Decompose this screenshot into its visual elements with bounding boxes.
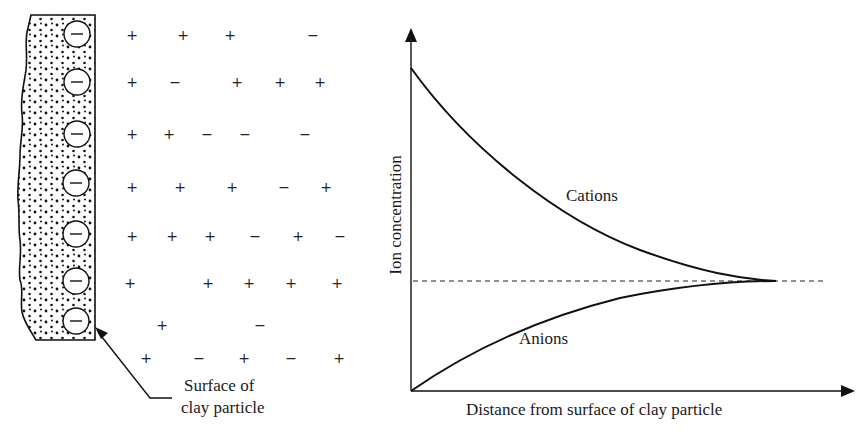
- cation-symbol: +: [231, 75, 243, 89]
- anion-symbol: −: [285, 351, 297, 365]
- cations-label: Cations: [566, 186, 618, 206]
- cation-symbol: +: [124, 276, 136, 290]
- diagram-canvas: [0, 0, 864, 444]
- cation-symbol: +: [126, 28, 138, 42]
- chart-axes: [411, 40, 842, 391]
- cation-symbol: +: [156, 318, 168, 332]
- surface-callout-arrow: [95, 327, 172, 398]
- cation-symbol: +: [126, 229, 138, 243]
- anion-symbol: −: [193, 351, 205, 365]
- cation-symbol: +: [314, 75, 326, 89]
- cation-symbol: +: [226, 180, 238, 194]
- cation-symbol: +: [126, 180, 138, 194]
- callout-label-line2: clay particle: [181, 398, 265, 418]
- y-axis-label: Ion concentration: [386, 155, 406, 274]
- cation-symbol: +: [238, 351, 250, 365]
- anion-symbol: −: [307, 28, 319, 42]
- anion-symbol: −: [299, 127, 311, 141]
- y-axis-arrow-icon: [405, 28, 417, 42]
- cation-symbol: +: [174, 180, 186, 194]
- cation-symbol: +: [204, 229, 216, 243]
- x-axis-label: Distance from surface of clay particle: [466, 400, 722, 420]
- anion-symbol: −: [201, 127, 213, 141]
- cation-symbol: +: [331, 276, 343, 290]
- anions-curve: [411, 281, 776, 391]
- anion-symbol: −: [169, 75, 181, 89]
- cation-symbol: +: [163, 127, 175, 141]
- cation-symbol: +: [292, 229, 304, 243]
- cation-symbol: +: [166, 229, 178, 243]
- callout-label-line1: Surface of: [184, 376, 254, 396]
- anion-symbol: −: [334, 229, 346, 243]
- cations-curve: [411, 68, 776, 281]
- cation-symbol: +: [285, 276, 297, 290]
- x-axis-arrow-icon: [841, 385, 855, 397]
- cation-symbol: +: [320, 180, 332, 194]
- anion-symbol: −: [278, 180, 290, 194]
- cation-symbol: +: [202, 276, 214, 290]
- clay-particle: [18, 15, 95, 340]
- cation-symbol: +: [243, 276, 255, 290]
- cation-symbol: +: [126, 127, 138, 141]
- cation-symbol: +: [126, 75, 138, 89]
- anion-symbol: −: [239, 127, 251, 141]
- anion-symbol: −: [254, 318, 266, 332]
- anion-symbol: −: [249, 229, 261, 243]
- cation-symbol: +: [274, 75, 286, 89]
- cation-symbol: +: [333, 351, 345, 365]
- cation-symbol: +: [177, 28, 189, 42]
- cation-symbol: +: [224, 28, 236, 42]
- anions-label: Anions: [519, 329, 568, 349]
- cation-symbol: +: [140, 351, 152, 365]
